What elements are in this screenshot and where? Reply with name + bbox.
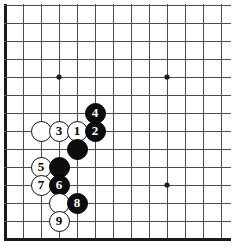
stone-move-number <box>32 122 51 141</box>
stone-move-number: 9 <box>50 212 69 231</box>
stone-move-number: 6 <box>50 176 69 195</box>
stone-black-8: 8 <box>67 193 88 214</box>
stone-move-number: 7 <box>32 176 51 195</box>
stone-move-number <box>50 194 69 213</box>
stone-layer: 312457689 <box>0 0 234 249</box>
stone-black-2: 2 <box>85 121 106 142</box>
stone-move-number <box>68 140 87 159</box>
stone-black-4: 4 <box>85 103 106 124</box>
stone-move-number: 8 <box>68 194 87 213</box>
go-board-diagram: 312457689 <box>0 0 234 249</box>
stone-move-number: 2 <box>86 122 105 141</box>
stone-move-number: 1 <box>68 122 87 141</box>
stone-move-number: 3 <box>50 122 69 141</box>
stone-move-number: 5 <box>32 158 51 177</box>
stone-move-number: 4 <box>86 104 105 123</box>
stone-white-9: 9 <box>49 211 70 232</box>
stone-move-number <box>50 158 69 177</box>
stone-black-unnumbered-c5r9 <box>67 139 88 160</box>
